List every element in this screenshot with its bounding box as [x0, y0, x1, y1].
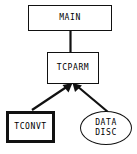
- node-tcparm-label: TCPARM: [57, 63, 90, 73]
- node-tconvt[interactable]: TCONVT: [6, 111, 55, 143]
- node-tcparm[interactable]: TCPARM: [47, 52, 99, 84]
- edge-datadisc-to-tcparm-line: [77, 86, 108, 112]
- node-tconvt-label: TCONVT: [14, 122, 47, 132]
- node-data-disc-label-line2: DISC: [95, 128, 117, 138]
- node-data-disc-label-line1: DATA: [95, 118, 117, 128]
- diagram-canvas: MAIN TCPARM TCONVT DATA DISC: [0, 0, 137, 154]
- edge-tconvt-to-tcparm-line: [32, 86, 68, 110]
- node-main[interactable]: MAIN: [28, 5, 112, 31]
- arrowhead-datadisc-to-tcparm: [73, 83, 83, 92]
- node-data-disc[interactable]: DATA DISC: [80, 111, 132, 145]
- node-main-label: MAIN: [59, 13, 81, 23]
